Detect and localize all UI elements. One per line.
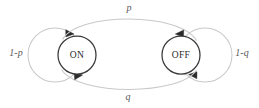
node-on[interactable]: ON	[58, 36, 96, 74]
state-diagram-svg: ON OFF p q 1-p 1-q	[0, 0, 259, 108]
edge-label-q: q	[126, 91, 131, 102]
edge-label-one-minus-p: 1-p	[9, 47, 22, 58]
edge-label-p: p	[126, 2, 132, 13]
node-off-label: OFF	[172, 50, 190, 60]
edge-label-one-minus-q: 1-q	[235, 47, 248, 58]
state-diagram-canvas: ON OFF p q 1-p 1-q	[0, 0, 259, 108]
arrowhead-into-off-from-self-loop	[188, 72, 197, 80]
node-on-label: ON	[70, 50, 84, 60]
node-off[interactable]: OFF	[162, 36, 200, 74]
